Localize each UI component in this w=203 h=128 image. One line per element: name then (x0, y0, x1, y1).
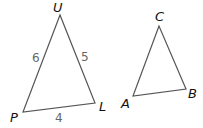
vertex-label-l: L (99, 99, 106, 114)
side-label-ul: 5 (81, 50, 89, 64)
vertex-label-p: P (10, 110, 18, 125)
vertex-label-a: A (120, 96, 130, 111)
side-label-pl: 4 (55, 111, 63, 125)
vertex-label-u: U (53, 0, 63, 15)
triangle-abc: C A B (120, 9, 197, 111)
vertex-label-b: B (188, 86, 197, 101)
side-label-pu: 6 (32, 51, 40, 65)
triangle-diagram: U P L 6 5 4 C A B (0, 0, 203, 128)
triangle-upl: U P L 6 5 4 (10, 0, 106, 125)
vertex-label-c: C (155, 9, 165, 24)
triangle-abc-shape (133, 26, 186, 96)
